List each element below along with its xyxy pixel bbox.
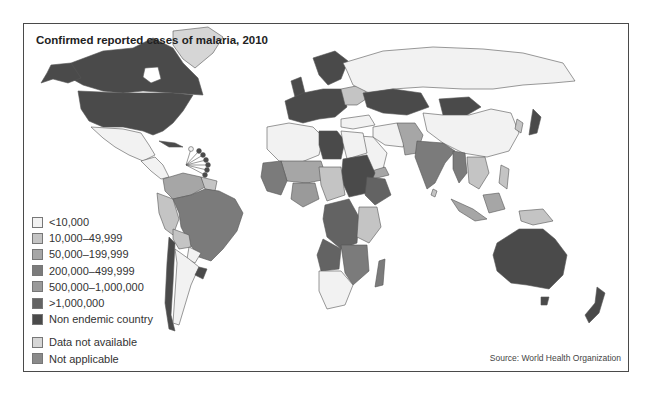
region-kenya-tanzania <box>357 207 381 243</box>
region-myanmar <box>453 151 467 183</box>
region-turkey <box>341 115 375 129</box>
region-tasmania <box>541 297 549 305</box>
legend-item-no-data: Data not available <box>32 334 153 350</box>
legend-item-lt10k: <10,000 <box>32 214 153 230</box>
legend-item-50k-200k: 50,000–199,999 <box>32 246 153 262</box>
legend-item-10k-50k: 10,000–49,999 <box>32 230 153 246</box>
region-guianas <box>201 177 217 191</box>
region-russia <box>343 47 575 93</box>
region-indochina <box>467 157 489 189</box>
region-new-zealand <box>585 287 605 323</box>
legend-item-gt1m: >1,000,000 <box>32 295 153 311</box>
region-drc <box>323 199 359 249</box>
region-australia <box>493 229 567 289</box>
legend-label: Not applicable <box>49 353 119 365</box>
legend: <10,000 10,000–49,999 50,000–199,999 200… <box>32 214 153 367</box>
legend-swatch <box>32 314 43 325</box>
region-central-america <box>141 157 169 179</box>
region-cuba <box>159 141 183 147</box>
legend-label: 50,000–199,999 <box>49 248 129 260</box>
legend-label: 500,000–1,000,000 <box>49 281 144 293</box>
legend-label: Data not available <box>49 336 137 348</box>
legend-swatch <box>32 281 43 292</box>
legend-label: <10,000 <box>49 216 89 228</box>
legend-label: Non endemic country <box>49 313 153 325</box>
region-chad-car <box>319 167 345 201</box>
legend-label: 200,000–499,999 <box>49 265 135 277</box>
region-kazakhstan <box>363 89 429 115</box>
legend-item-500k-1m: 500,000–1,000,000 <box>32 279 153 295</box>
legend-swatch <box>32 353 43 364</box>
region-brazil <box>173 189 243 261</box>
region-png <box>519 209 553 225</box>
legend-swatch <box>32 233 43 244</box>
legend-item-not-applicable: Not applicable <box>32 351 153 367</box>
region-indonesia-2 <box>483 193 505 213</box>
region-mongolia <box>439 97 481 115</box>
legend-item-200k-500k: 200,000–499,999 <box>32 263 153 279</box>
legend-label: >1,000,000 <box>49 297 104 309</box>
caribbean-callout <box>186 147 210 178</box>
region-ethiopia <box>365 177 391 205</box>
legend-swatch <box>32 217 43 228</box>
legend-label: 10,000–49,999 <box>49 232 122 244</box>
region-japan <box>529 109 541 135</box>
region-sri-lanka <box>431 189 437 197</box>
region-india <box>415 141 455 189</box>
legend-swatch <box>32 265 43 276</box>
region-scandinavia <box>313 51 348 85</box>
region-madagascar <box>375 259 385 287</box>
region-nigeria <box>291 183 319 207</box>
map-title: Confirmed reported cases of malaria, 201… <box>36 34 268 46</box>
legend-swatch <box>32 337 43 348</box>
source-note: Source: World Health Organization <box>490 353 621 363</box>
legend-swatch <box>32 249 43 260</box>
legend-swatch <box>32 298 43 309</box>
region-north-africa-west <box>267 123 323 163</box>
legend-item-non-endemic: Non endemic country <box>32 311 153 327</box>
legend-gap <box>32 327 153 334</box>
region-philippines <box>499 165 509 189</box>
region-libya <box>319 131 345 159</box>
region-indonesia-1 <box>451 199 487 221</box>
